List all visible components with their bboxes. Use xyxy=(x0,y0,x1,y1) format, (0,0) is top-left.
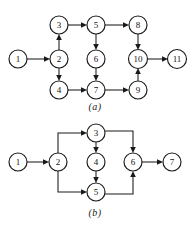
node-b-2-label: 2 xyxy=(56,157,61,167)
edge-b-1-to-2 xyxy=(27,159,49,165)
node-a-1-label: 1 xyxy=(16,54,21,64)
node-a-9[interactable]: 9 xyxy=(129,81,147,99)
node-a-10[interactable]: 10 xyxy=(129,50,148,69)
edge-b-4-to-5 xyxy=(93,171,99,183)
diagram-a-nodes: 1 2 3 4 5 6 7 xyxy=(9,16,187,99)
edge-5-to-6 xyxy=(93,34,99,50)
node-a-6[interactable]: 6 xyxy=(87,50,105,68)
edge-9-to-10 xyxy=(135,68,141,81)
edge-b-5-to-6 xyxy=(105,171,136,194)
node-b-6[interactable]: 6 xyxy=(124,153,142,171)
node-b-6-label: 6 xyxy=(131,157,136,167)
edge-1-to-2 xyxy=(27,56,50,62)
edge-7-to-9 xyxy=(105,87,129,93)
edge-3-to-5 xyxy=(68,22,87,28)
node-a-11[interactable]: 11 xyxy=(168,50,187,69)
node-a-3-label: 3 xyxy=(57,20,62,30)
node-a-6-label: 6 xyxy=(94,54,99,64)
node-a-8[interactable]: 8 xyxy=(129,16,147,34)
node-b-5[interactable]: 5 xyxy=(87,183,105,201)
edge-10-to-11 xyxy=(147,56,168,62)
node-a-11-label: 11 xyxy=(173,54,182,64)
node-a-4[interactable]: 4 xyxy=(50,81,68,99)
edge-2-to-3 xyxy=(56,34,62,50)
node-a-9-label: 9 xyxy=(136,85,141,95)
edge-b-2-to-5 xyxy=(58,171,87,195)
node-a-7[interactable]: 7 xyxy=(87,81,105,99)
node-b-3-label: 3 xyxy=(94,128,99,138)
caption-diagram-a: (a) xyxy=(75,101,115,112)
node-a-8-label: 8 xyxy=(136,20,141,30)
node-a-4-label: 4 xyxy=(57,85,62,95)
node-b-4[interactable]: 4 xyxy=(87,153,105,171)
diagram-b: 1 2 3 4 5 6 7 xyxy=(9,124,181,201)
node-b-4-label: 4 xyxy=(94,157,99,167)
edge-b-6-to-7 xyxy=(142,159,163,165)
caption-diagram-b: (b) xyxy=(75,207,115,218)
node-a-5-label: 5 xyxy=(94,20,99,30)
edge-4-to-7 xyxy=(68,87,87,93)
edge-b-3-to-4 xyxy=(93,142,99,153)
node-a-1[interactable]: 1 xyxy=(9,50,27,68)
node-b-5-label: 5 xyxy=(94,187,99,197)
edge-8-to-10 xyxy=(135,34,141,50)
edge-5-to-8 xyxy=(105,22,129,28)
precedence-graph-figure: 1 2 3 4 5 6 7 xyxy=(0,0,195,232)
node-a-2[interactable]: 2 xyxy=(50,50,68,68)
node-b-3[interactable]: 3 xyxy=(87,124,105,142)
edge-6-to-7 xyxy=(93,68,99,81)
node-a-7-label: 7 xyxy=(94,85,99,95)
node-a-5[interactable]: 5 xyxy=(87,16,105,34)
node-a-10-label: 10 xyxy=(134,54,144,64)
node-b-7-label: 7 xyxy=(170,157,175,167)
node-b-7[interactable]: 7 xyxy=(163,153,181,171)
edge-b-3-to-6 xyxy=(105,131,136,153)
edge-2-to-4 xyxy=(56,68,62,81)
node-b-1-label: 1 xyxy=(16,157,21,167)
diagram-a: 1 2 3 4 5 6 7 xyxy=(9,16,187,99)
node-a-2-label: 2 xyxy=(57,54,62,64)
edge-b-2-to-3 xyxy=(58,130,87,153)
node-b-1[interactable]: 1 xyxy=(9,153,27,171)
node-a-3[interactable]: 3 xyxy=(50,16,68,34)
node-b-2[interactable]: 2 xyxy=(49,153,67,171)
